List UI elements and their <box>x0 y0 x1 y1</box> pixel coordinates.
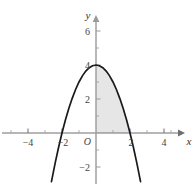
x-axis-label: x <box>186 135 192 147</box>
y-axis-arrow <box>93 15 100 22</box>
y-tick-label-2: 2 <box>85 94 90 105</box>
x-tick-label-neg2: −2 <box>58 137 69 148</box>
x-tick-label-neg4: −4 <box>23 137 34 148</box>
shaded-region <box>96 65 130 133</box>
figure-container: −4 −2 2 4 6 4 2 −2 O x y <box>0 0 194 184</box>
x-tick-label-4: 4 <box>162 137 167 148</box>
x-tick-label-2: 2 <box>129 137 134 148</box>
y-tick-label-neg2: −2 <box>79 162 90 173</box>
y-tick-label-6: 6 <box>85 26 90 37</box>
y-axis-label: y <box>85 9 91 21</box>
origin-label: O <box>84 136 91 147</box>
parabola-plot: −4 −2 2 4 6 4 2 −2 O x y <box>0 0 194 184</box>
y-tick-label-4: 4 <box>85 60 90 71</box>
x-axis-arrow <box>178 129 185 136</box>
